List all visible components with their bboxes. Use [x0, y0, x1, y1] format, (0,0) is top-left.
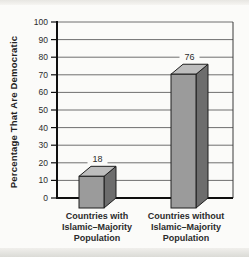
- category-label: Countries withIslamic–MajorityPopulation: [62, 211, 132, 243]
- y-tick-label: 100: [34, 17, 48, 27]
- scan-edge-top: [0, 0, 249, 5]
- y-tick-label: 20: [39, 158, 49, 168]
- bar-value-label: 18: [92, 154, 102, 164]
- bar-front-face: [79, 176, 104, 208]
- bar-value-label: 76: [184, 52, 194, 62]
- y-tick-label: 70: [39, 70, 49, 80]
- y-tick-label: 90: [39, 35, 49, 45]
- y-tick-label: 0: [43, 193, 48, 203]
- bar-front-face: [171, 74, 196, 208]
- scan-edge-bottom: [0, 248, 249, 257]
- y-tick-label: 40: [39, 123, 49, 133]
- y-tick-label: 50: [39, 105, 49, 115]
- y-tick-label: 10: [39, 175, 49, 185]
- y-tick-label: 60: [39, 87, 49, 97]
- y-tick-label: 80: [39, 52, 49, 62]
- y-tick-label: 30: [39, 140, 49, 150]
- bar-side-face: [196, 64, 208, 208]
- y-axis-title: Percentage That Are Democratic: [8, 36, 19, 188]
- figure-page: Percentage That Are Democratic 010203040…: [0, 0, 249, 257]
- bar-chart: Percentage That Are Democratic 010203040…: [0, 0, 249, 257]
- category-label: Countries withoutIslamic–MajorityPopulat…: [148, 211, 225, 243]
